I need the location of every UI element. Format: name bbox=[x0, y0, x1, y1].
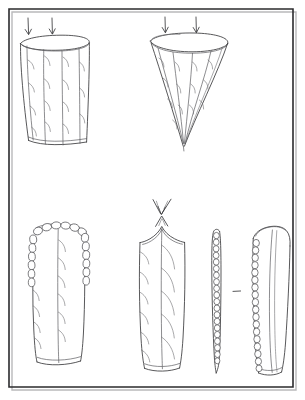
figure-canvas bbox=[0, 0, 305, 400]
figure-plate: Hand-drawn line diagram plate tapered-cy… bbox=[0, 0, 305, 400]
